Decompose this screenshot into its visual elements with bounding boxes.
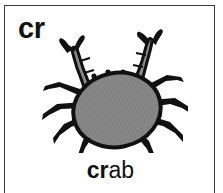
word-onset: cr [87,157,109,183]
phonics-flashcard: cr [4,5,215,193]
crab-illustration [33,28,188,153]
word-label: crab [5,159,215,182]
word-rime: ab [109,157,135,183]
